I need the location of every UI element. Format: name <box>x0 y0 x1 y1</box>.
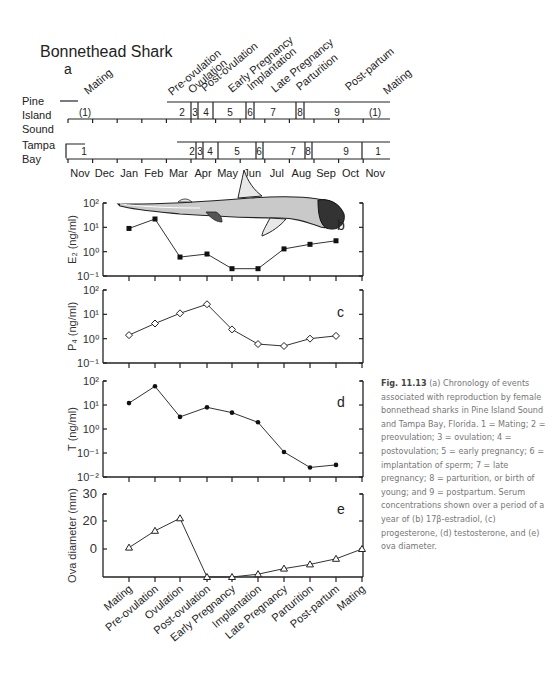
month-label: Mar <box>169 167 188 179</box>
svg-text:10⁻¹: 10⁻¹ <box>77 357 99 369</box>
svg-text:1: 1 <box>375 146 381 157</box>
svg-text:10⁰: 10⁰ <box>83 423 100 435</box>
tampa-label-2: Bay <box>22 153 41 165</box>
pine-island-stage-numbers: (1) 2 3 4 5 6 7 8 9 (1) <box>79 107 381 118</box>
svg-text:9: 9 <box>343 146 349 157</box>
caption-fig-number: Fig. 11.13 <box>381 378 427 388</box>
panel-c: 10²10¹10⁰10⁻¹P₄ (ng/ml)c <box>66 284 363 369</box>
y-axis-label: E₂ (ng/ml) <box>66 215 78 264</box>
panel-e: 30200Ova diameter (mm)e <box>66 486 366 583</box>
tampa-label-1: Tampa <box>22 139 56 151</box>
caption-text: (a) Chronology of events associated with… <box>381 378 546 551</box>
tampa-bay-stage-numbers: 1 2 3 4 5 6 7 8 9 1 <box>81 146 381 157</box>
svg-text:10¹: 10¹ <box>83 221 99 233</box>
svg-text:10¹: 10¹ <box>83 399 99 411</box>
chart-panels: 10²10¹10⁰10⁻¹E₂ (ng/ml)b10²10¹10⁰10⁻¹P₄ … <box>66 197 366 583</box>
month-label: May <box>217 167 238 179</box>
figure-caption: Fig. 11.13 (a) Chronology of events asso… <box>381 377 551 554</box>
panel-letter: b <box>337 217 345 233</box>
panel-letter: d <box>337 394 345 410</box>
tampa-bay-month-ticks <box>68 159 363 163</box>
pine-island-timeline <box>60 101 390 119</box>
month-label: Nov <box>365 167 385 179</box>
category-label: Mating <box>334 582 367 612</box>
pine-label-1: Pine <box>22 95 44 107</box>
svg-text:20: 20 <box>83 513 97 528</box>
event-label: Mating <box>381 66 414 96</box>
svg-text:10⁻²: 10⁻² <box>77 471 99 483</box>
bottom-category-labels: MatingPre-ovulationOvulationPost-ovulati… <box>101 582 367 643</box>
month-label: Dec <box>95 167 115 179</box>
month-label: Apr <box>194 167 211 179</box>
svg-text:3: 3 <box>197 146 203 157</box>
svg-text:10⁻¹: 10⁻¹ <box>77 270 99 282</box>
panel-d: 10²10¹10⁰10⁻¹10⁻²T (ng/ml)d <box>66 375 363 483</box>
figure-title: Bonnethead Shark <box>40 43 174 60</box>
svg-text:0: 0 <box>90 541 97 556</box>
month-label: Nov <box>70 167 90 179</box>
svg-text:6: 6 <box>247 107 253 118</box>
y-axis-label: T (ng/ml) <box>66 407 78 451</box>
month-axis-labels: NovDecJanFebMarAprMayJunJulAugSepOctNov <box>70 167 385 179</box>
svg-text:4: 4 <box>207 146 213 157</box>
svg-text:10⁰: 10⁰ <box>83 246 100 258</box>
svg-text:30: 30 <box>83 486 97 501</box>
shark-illustration-icon <box>118 170 344 236</box>
svg-text:4: 4 <box>203 107 209 118</box>
panel-letter: c <box>337 304 344 320</box>
panel-letter: e <box>337 501 345 517</box>
svg-text:10⁰: 10⁰ <box>83 333 100 345</box>
month-label: Jul <box>270 167 284 179</box>
svg-text:1: 1 <box>81 146 87 157</box>
month-label: Feb <box>144 167 163 179</box>
month-label: Aug <box>292 167 312 179</box>
svg-text:2: 2 <box>189 146 195 157</box>
row-labels: Pine Island Sound Tampa Bay <box>22 95 56 165</box>
panel-a-label: a <box>64 61 72 77</box>
svg-text:10²: 10² <box>83 197 99 209</box>
svg-text:5: 5 <box>234 146 240 157</box>
month-label: Jan <box>120 167 138 179</box>
svg-text:6: 6 <box>256 146 262 157</box>
svg-text:7: 7 <box>270 107 276 118</box>
tampa-bay-timeline <box>66 142 390 159</box>
figure-canvas: Bonnethead Shark a MatingPre-ovulationOv… <box>0 0 553 676</box>
svg-text:(1): (1) <box>369 107 381 118</box>
svg-text:7: 7 <box>290 146 296 157</box>
pine-label-3: Sound <box>22 123 54 135</box>
month-label: Oct <box>342 167 359 179</box>
svg-text:(1): (1) <box>79 107 91 118</box>
svg-text:3: 3 <box>192 107 198 118</box>
svg-text:8: 8 <box>305 146 311 157</box>
month-label: Sep <box>316 167 336 179</box>
y-axis-label: Ova diameter (mm) <box>66 488 78 583</box>
svg-text:2: 2 <box>179 107 185 118</box>
svg-text:10¹: 10¹ <box>83 308 99 320</box>
y-axis-label: P₄ (ng/ml) <box>66 302 78 351</box>
svg-text:5: 5 <box>227 107 233 118</box>
event-label: Mating <box>82 66 115 96</box>
svg-text:10²: 10² <box>83 375 99 387</box>
svg-text:10⁻¹: 10⁻¹ <box>77 447 99 459</box>
svg-text:9: 9 <box>334 107 340 118</box>
pine-label-2: Island <box>22 109 51 121</box>
svg-text:8: 8 <box>297 107 303 118</box>
svg-text:10²: 10² <box>83 284 99 296</box>
